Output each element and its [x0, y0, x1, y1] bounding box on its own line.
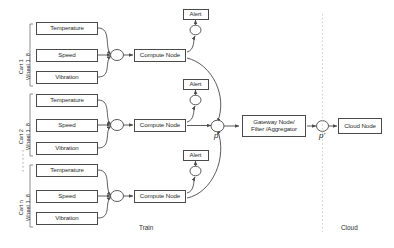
sensor-box-vibration-cart-n[interactable]: Vibration: [36, 212, 98, 225]
sensor-box-vibration-cart-2[interactable]: Vibration: [36, 142, 98, 155]
diagram-canvas: Cart 1 Wheel 1..8 Temperature Speed Vibr…: [0, 0, 394, 248]
sensor-box-temperature-cart-n[interactable]: Temperature: [36, 164, 98, 177]
gateway-line2: Filter /Aggregator: [251, 126, 297, 133]
compute-node-cart-n[interactable]: Compute Node: [134, 190, 186, 203]
merge-circle-cart-n: [111, 191, 124, 202]
alert-box-cart-2[interactable]: Alert: [183, 79, 209, 90]
cart-label-cart-n: Cart n Wheel 1..8: [18, 194, 32, 221]
cart-n-label-line1: Cart n: [18, 194, 25, 221]
zone-label-train: Train: [139, 224, 153, 231]
cart-1-label-line1: Cart 1: [18, 53, 25, 80]
cloud-node[interactable]: Cloud Node: [338, 118, 382, 134]
edge-temperature-to-merge-2: [98, 100, 111, 124]
cart-label-cart-2: Cart 2 Wheel 1..8: [18, 123, 32, 150]
compute-node-cart-2[interactable]: Compute Node: [134, 119, 186, 132]
edge-vibration-to-merge-1: [98, 56, 111, 77]
merge-circle-cart-2: [111, 120, 124, 131]
edge-vibration-to-merge-2: [98, 126, 111, 148]
sensor-box-temperature-cart-1[interactable]: Temperature: [36, 22, 98, 35]
edge-compute-1-to-p: [187, 58, 221, 122]
cart-1-label-line2: Wheel 1..8: [25, 53, 32, 80]
edge-compute-to-alertnode-1: [187, 36, 195, 52]
junction-label-p: p: [214, 131, 218, 140]
junction-circle-p-prime: [317, 121, 329, 132]
alert-box-cart-1[interactable]: Alert: [183, 9, 209, 20]
sensor-box-speed-cart-2[interactable]: Speed: [36, 119, 98, 132]
zone-label-cloud: Cloud: [341, 224, 358, 231]
alert-box-cart-n[interactable]: Alert: [183, 150, 209, 161]
cart-2-label-line2: Wheel 1..8: [25, 123, 32, 150]
edge-vibration-to-merge-n: [98, 197, 111, 218]
compute-node-cart-1[interactable]: Compute Node: [134, 49, 186, 62]
sensor-box-speed-cart-n[interactable]: Speed: [36, 190, 98, 203]
edge-temperature-to-merge-1: [98, 28, 111, 54]
alert-circle-cart-n: [190, 166, 201, 176]
edge-compute-n-to-p: [187, 130, 221, 198]
merge-circle-cart-1: [111, 50, 124, 61]
edge-compute-to-alertnode-n: [187, 177, 195, 193]
alert-circle-cart-2: [190, 95, 201, 105]
alert-circle-cart-1: [190, 25, 201, 35]
cart-n-label-line2: Wheel 1..8: [25, 194, 32, 221]
gateway-node[interactable]: Gateway Node/ Filter /Aggregator: [242, 115, 306, 137]
sensor-box-temperature-cart-2[interactable]: Temperature: [36, 94, 98, 107]
junction-label-p-prime: p': [319, 131, 325, 140]
sensor-box-vibration-cart-1[interactable]: Vibration: [36, 71, 98, 84]
edge-temperature-to-merge-n: [98, 170, 111, 195]
cart-2-label-line1: Cart 2: [18, 123, 25, 150]
edge-compute-to-alertnode-2: [187, 106, 195, 122]
cart-label-cart-1: Cart 1 Wheel 1..8: [18, 53, 32, 80]
sensor-box-speed-cart-1[interactable]: Speed: [36, 49, 98, 62]
